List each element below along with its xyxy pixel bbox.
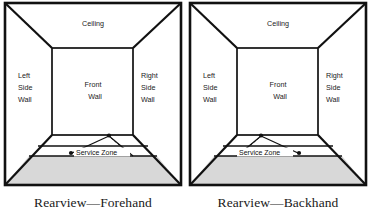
front-wall-label-line2: Wall (88, 92, 102, 101)
ceiling-label: Ceiling (82, 19, 104, 28)
right-side-wall-label-line1: Right (141, 71, 158, 80)
floor-shading (5, 156, 181, 185)
front-wall-label-line2: Wall (273, 92, 287, 101)
corner-line-top-left (5, 3, 52, 48)
front-wall-label-line1: Front (270, 80, 287, 89)
left-side-wall-label-line1: Left (203, 71, 215, 80)
right-side-wall-label-line3: Wall (141, 95, 155, 104)
floor-bounce-dot (297, 151, 301, 155)
right-side-wall-label-line3: Wall (326, 95, 340, 104)
corner-line-top-left (190, 3, 237, 48)
figure-rearview-forehand: Service Zone Ceiling Left Side Wall Fron… (0, 0, 186, 215)
left-side-wall-label-line3: Wall (203, 95, 217, 104)
court-diagram-backhand: Service Zone Ceiling Left Side Wall Fron… (185, 0, 371, 192)
left-side-wall-label-line1: Left (18, 71, 30, 80)
corner-line-top-right (318, 3, 366, 48)
figure-caption-forehand: Rearview—Forehand (0, 195, 186, 211)
right-side-wall-label-line2: Side (141, 83, 155, 92)
left-side-wall-label-line2: Side (18, 83, 32, 92)
ceiling-label: Ceiling (267, 19, 289, 28)
front-wall-contact-dot (259, 133, 263, 137)
front-wall-contact-dot (107, 133, 111, 137)
figure-caption-backhand: Rearview—Backhand (185, 195, 371, 211)
right-side-wall-label-line1: Right (326, 71, 343, 80)
corner-line-top-right (133, 3, 181, 48)
floor-bounce-dot (69, 151, 73, 155)
service-zone-label: Service Zone (239, 149, 280, 156)
service-zone-label: Service Zone (76, 149, 117, 156)
floor-shading (190, 156, 366, 185)
figure-rearview-backhand: Service Zone Ceiling Left Side Wall Fron… (185, 0, 371, 215)
left-side-wall-label-line2: Side (203, 83, 217, 92)
court-diagram-forehand: Service Zone Ceiling Left Side Wall Fron… (0, 0, 186, 192)
right-side-wall-label-line2: Side (326, 83, 340, 92)
left-side-wall-label-line3: Wall (18, 95, 32, 104)
front-wall-label-line1: Front (85, 80, 102, 89)
